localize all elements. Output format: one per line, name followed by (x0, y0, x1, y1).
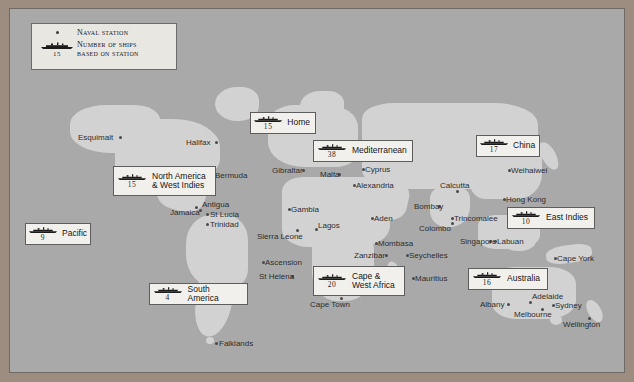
station-box-china: 17China (476, 135, 540, 157)
legend-ships-label: Number of ships based on station (77, 40, 139, 58)
place-label-zanzibar: Zanzibar (354, 251, 385, 260)
station-label-home: Home (287, 118, 310, 128)
place-label-lagos: Lagos (318, 221, 340, 230)
station-marker-falklands (215, 342, 218, 345)
battleship-silhouette-icon: 15 (117, 173, 147, 189)
station-marker-zanzibar (385, 254, 388, 257)
place-label-malta: Malta (320, 170, 340, 179)
place-label-aden: Aden (374, 214, 393, 223)
station-label-pacific: Pacific (62, 229, 87, 239)
place-label-sierra-leone: Sierra Leone (257, 232, 303, 241)
place-label-gibraltar: Gibraltar (272, 166, 303, 175)
place-label-st-lucia: St Lucia (210, 210, 239, 219)
station-ship-count-north-america-west-indies: 15 (128, 181, 137, 189)
station-marker-adelaide (529, 301, 532, 304)
place-label-bermuda: Bermuda (215, 171, 247, 180)
station-box-pacific: 9Pacific (25, 223, 91, 245)
place-label-trinidad: Trinidad (210, 220, 239, 229)
place-label-bombay: Bombay (414, 202, 443, 211)
place-label-esquimalt: Esquimalt (78, 133, 113, 142)
place-label-alexandria: Alexandria (356, 181, 394, 190)
battleship-silhouette-icon: 20 (317, 273, 347, 289)
station-marker-trinidad (206, 223, 209, 226)
station-label-east-indies: East Indies (546, 213, 588, 223)
legend-naval-station-label: Naval station (77, 28, 128, 37)
dot-marker-icon (37, 31, 77, 34)
battleship-silhouette-icon: 4 (153, 286, 183, 302)
station-box-south-america: 4South America (149, 283, 248, 305)
place-label-mombasa: Mombasa (378, 239, 413, 248)
station-label-australia: Australia (507, 274, 540, 284)
legend-row-ship-count: 15 Number of ships based on station (37, 40, 171, 58)
station-box-east-indies: 10East Indies (507, 207, 595, 229)
place-label-adelaide: Adelaide (532, 292, 563, 301)
place-label-seychelles: Seychelles (409, 251, 448, 260)
station-marker-halifax (215, 141, 218, 144)
place-label-jamaica: Jamaica (170, 208, 200, 217)
legend-row-naval-station: Naval station (37, 28, 171, 37)
station-box-cape-west-africa: 20Cape & West Africa (313, 266, 405, 296)
station-ship-count-home: 15 (264, 123, 273, 131)
place-label-cape-york: Cape York (557, 254, 594, 263)
place-label-falklands: Falklands (219, 339, 253, 348)
place-label-weihaiwei: Weihaiwei (511, 166, 547, 175)
station-marker-st-lucia (206, 213, 209, 216)
place-label-st-helena: St Helena (259, 272, 294, 281)
station-box-mediterranean: 38Mediterranean (313, 140, 413, 162)
station-box-home: 15Home (250, 112, 316, 134)
place-label-melbourne: Melbourne (514, 310, 552, 319)
place-label-hong-kong: Hong Kong (506, 195, 546, 204)
place-label-albany: Albany (480, 300, 504, 309)
place-label-antigua: Antigua (202, 200, 229, 209)
station-ship-count-china: 17 (490, 146, 499, 154)
battleship-silhouette-icon: 38 (317, 143, 347, 159)
station-ship-count-south-america: 4 (166, 294, 170, 302)
station-marker-esquimalt (119, 136, 122, 139)
station-label-china: China (513, 141, 535, 151)
station-ship-count-pacific: 9 (41, 234, 45, 242)
place-label-ascension: Ascension (265, 258, 302, 267)
station-label-north-america-west-indies: North America & West Indies (152, 172, 206, 191)
map-legend: Naval station 15 Number of ships based o… (31, 23, 177, 70)
station-marker-albany (507, 303, 510, 306)
battleship-silhouette-icon: 10 (511, 210, 541, 226)
place-label-trincomalee: Trincomalee (454, 214, 498, 223)
map-frame: Naval station 15 Number of ships based o… (0, 0, 634, 382)
place-label-singapore: Singapore (460, 237, 496, 246)
place-label-cape-town: Cape Town (310, 300, 350, 309)
place-label-sydney: Sydney (555, 301, 582, 310)
place-label-calcutta: Calcutta (440, 181, 469, 190)
station-label-mediterranean: Mediterranean (352, 146, 407, 156)
place-label-colombo: Colombo (419, 224, 451, 233)
station-ship-count-cape-west-africa: 20 (328, 281, 337, 289)
battleship-silhouette-icon: 9 (29, 226, 57, 242)
station-box-north-america-west-indies: 15North America & West Indies (113, 166, 216, 196)
battleship-silhouette-icon: 17 (480, 138, 508, 154)
legend-sample-count: 15 (53, 50, 61, 58)
battleship-silhouette-icon: 16 (472, 271, 502, 287)
station-ship-count-east-indies: 10 (522, 218, 531, 226)
place-label-wellington: Wellington (563, 320, 600, 329)
station-ship-count-mediterranean: 38 (328, 151, 337, 159)
station-label-south-america: South America (188, 285, 242, 304)
place-label-labuan: Labuan (497, 237, 524, 246)
battleship-silhouette-icon: 15 (37, 41, 77, 58)
battleship-silhouette-icon: 15 (254, 115, 282, 131)
landmass-falklands (206, 337, 214, 344)
place-label-gambia: Gambia (291, 205, 319, 214)
place-label-cyprus: Cyprus (365, 165, 390, 174)
place-label-mauritius: Mauritius (415, 274, 447, 283)
station-ship-count-australia: 16 (483, 279, 492, 287)
place-label-halifax: Halifax (186, 138, 210, 147)
world-map: Naval station 15 Number of ships based o… (10, 9, 624, 372)
station-label-cape-west-africa: Cape & West Africa (352, 272, 395, 291)
station-box-australia: 16Australia (468, 268, 548, 290)
station-marker-calcutta (456, 190, 459, 193)
